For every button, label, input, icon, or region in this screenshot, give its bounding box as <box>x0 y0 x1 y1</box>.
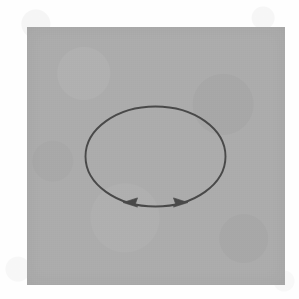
line-drawing <box>0 0 299 299</box>
arrowhead-right-icon <box>174 198 189 207</box>
closed-loop-ellipse <box>86 107 226 207</box>
figure-root <box>0 0 299 299</box>
arrowhead-left-icon <box>123 198 138 207</box>
